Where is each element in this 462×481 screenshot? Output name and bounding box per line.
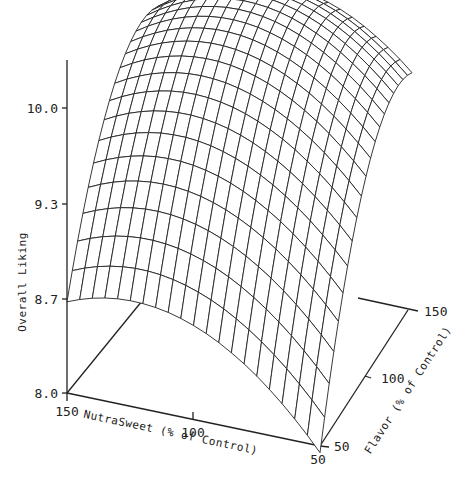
z-tick-label: 10.0 xyxy=(27,101,58,116)
x-tick-label: 150 xyxy=(55,404,78,419)
y-tick xyxy=(320,446,329,447)
y-tick-label: 100 xyxy=(381,371,404,386)
y-tick-label: 150 xyxy=(424,304,447,319)
z-tick-label: 8.0 xyxy=(35,386,58,401)
z-axis-title: Overall Liking xyxy=(16,232,29,332)
y-tick xyxy=(365,376,371,378)
x-tick-label: 50 xyxy=(310,452,326,467)
y-axis-title: Flavor (% of Control) xyxy=(362,324,454,457)
surface-chart: 10.0 9.3 8.7 8.0 Overall Liking 150 100 … xyxy=(0,0,462,481)
y-tick-label: 50 xyxy=(334,439,350,454)
z-tick-label: 8.7 xyxy=(35,292,58,307)
z-tick-label: 9.3 xyxy=(35,197,58,212)
floor-right-edge xyxy=(358,298,418,311)
